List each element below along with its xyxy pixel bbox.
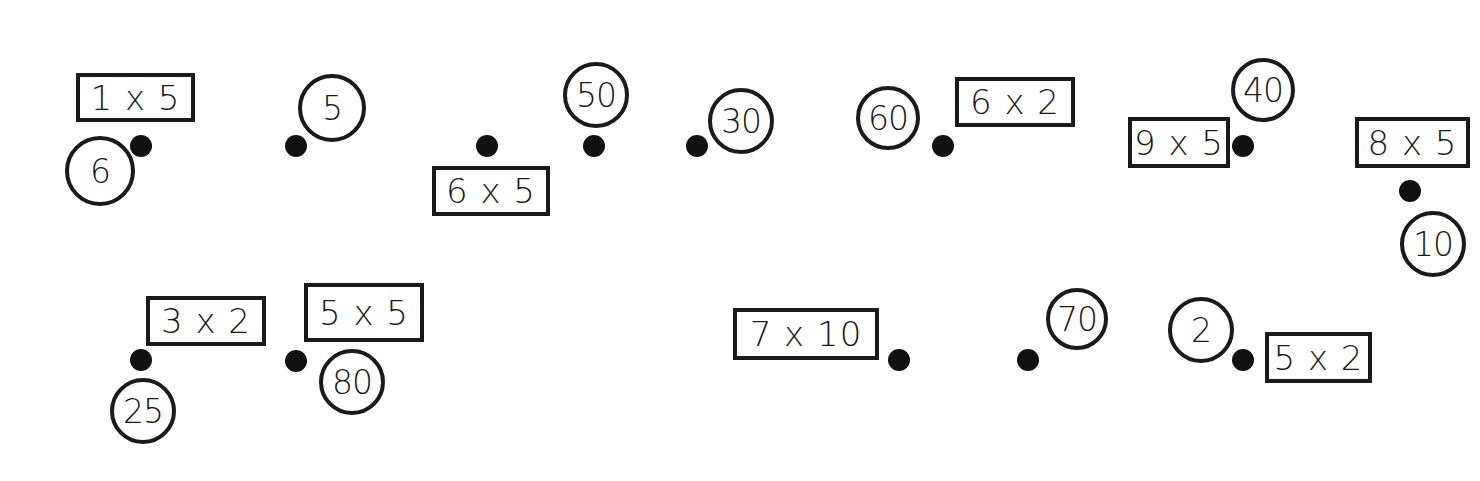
answer-circle-10[interactable]: 10: [1400, 211, 1466, 277]
answer-circle-50[interactable]: 50: [563, 62, 629, 128]
match-dot[interactable]: [583, 135, 605, 157]
match-dot[interactable]: [285, 350, 307, 372]
expression-box-1x5[interactable]: 1 x 5: [76, 73, 195, 122]
matching-worksheet: 1 x 5 6 x 5 6 x 2 9 x 5 8 x 5 3 x 2 5 x …: [0, 0, 1480, 481]
expression-label: 5 x 5: [319, 293, 409, 333]
answer-label: 50: [576, 76, 616, 115]
answer-label: 25: [123, 392, 163, 431]
match-dot[interactable]: [1232, 135, 1254, 157]
expression-label: 8 x 5: [1368, 123, 1458, 163]
answer-label: 10: [1413, 225, 1453, 264]
expression-label: 6 x 5: [446, 171, 536, 211]
expression-box-7x10[interactable]: 7 x 10: [733, 308, 879, 360]
answer-label: 60: [868, 99, 908, 138]
expression-box-3x2[interactable]: 3 x 2: [146, 296, 266, 346]
answer-circle-70[interactable]: 70: [1046, 288, 1108, 350]
match-dot[interactable]: [130, 349, 152, 371]
match-dot[interactable]: [1017, 349, 1039, 371]
expression-label: 1 x 5: [91, 78, 181, 118]
answer-circle-6[interactable]: 6: [65, 136, 135, 206]
expression-label: 3 x 2: [161, 301, 251, 341]
expression-label: 7 x 10: [750, 314, 863, 354]
match-dot[interactable]: [888, 349, 910, 371]
match-dot[interactable]: [932, 135, 954, 157]
expression-box-8x5[interactable]: 8 x 5: [1355, 117, 1470, 168]
answer-circle-80[interactable]: 80: [319, 349, 385, 415]
expression-label: 9 x 5: [1134, 123, 1224, 163]
expression-box-5x2[interactable]: 5 x 2: [1265, 332, 1372, 383]
match-dot[interactable]: [130, 135, 152, 157]
answer-label: 2: [1191, 311, 1211, 350]
answer-label: 30: [721, 102, 761, 141]
expression-box-5x5[interactable]: 5 x 5: [304, 283, 424, 342]
answer-circle-5[interactable]: 5: [298, 74, 366, 142]
expression-label: 6 x 2: [970, 82, 1060, 122]
answer-label: 40: [1243, 71, 1283, 110]
answer-label: 5: [322, 89, 342, 128]
answer-circle-60[interactable]: 60: [856, 86, 920, 150]
expression-box-6x5[interactable]: 6 x 5: [432, 166, 550, 216]
expression-box-9x5[interactable]: 9 x 5: [1128, 117, 1230, 168]
answer-circle-2[interactable]: 2: [1168, 297, 1234, 363]
answer-label: 70: [1057, 300, 1097, 339]
expression-label: 5 x 2: [1274, 338, 1364, 378]
answer-label: 6: [90, 152, 110, 191]
match-dot[interactable]: [476, 135, 498, 157]
expression-box-6x2[interactable]: 6 x 2: [955, 77, 1075, 127]
match-dot[interactable]: [1399, 180, 1421, 202]
answer-circle-40[interactable]: 40: [1231, 58, 1295, 122]
match-dot[interactable]: [686, 135, 708, 157]
answer-circle-30[interactable]: 30: [708, 88, 774, 154]
answer-label: 80: [332, 363, 372, 402]
match-dot[interactable]: [1232, 349, 1254, 371]
answer-circle-25[interactable]: 25: [110, 378, 176, 444]
match-dot[interactable]: [285, 135, 307, 157]
